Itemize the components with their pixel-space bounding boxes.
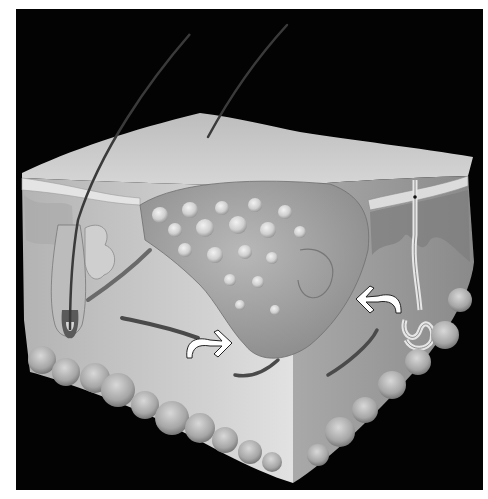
skin-cross-section-illustration [0, 0, 488, 499]
skin-surface [22, 113, 473, 186]
hair-follicle [51, 225, 85, 338]
